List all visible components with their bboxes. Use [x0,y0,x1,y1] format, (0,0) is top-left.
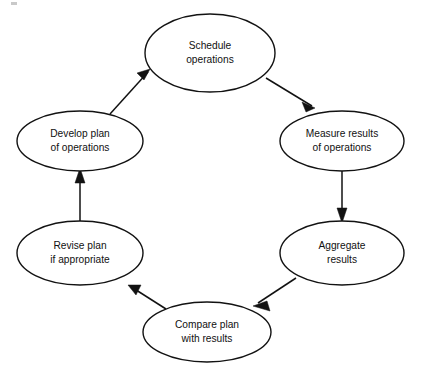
arrow-develop-plan-to-schedule-operations [110,69,150,114]
node-schedule-operations-label-line2: operations [186,54,234,65]
arrow-schedule-operations-to-measure-results [266,78,315,112]
arrow-revise-plan-to-develop-plan [75,168,85,221]
node-schedule-operations-label-line1: Schedule [189,40,232,51]
diagram-canvas: Schedule operations Measure results of o… [0,0,422,382]
node-measure-results[interactable]: Measure results of operations [280,111,404,171]
node-aggregate-results-label-line1: Aggregate [318,240,365,251]
operations-cycle-diagram: Schedule operations Measure results of o… [0,0,422,382]
node-schedule-operations[interactable]: Schedule operations [145,14,275,92]
node-measure-results-label-line2: of operations [313,142,372,153]
node-develop-plan-label-line1: Develop plan [50,128,109,139]
arrow-aggregate-results-to-compare-plan [253,278,296,311]
node-develop-plan[interactable]: Develop plan of operations [17,111,143,171]
node-revise-plan-label-line1: Revise plan [53,240,106,251]
node-compare-plan[interactable]: Compare plan with results [143,302,271,362]
arrow-compare-plan-to-revise-plan [128,285,166,309]
node-compare-plan-label-line1: Compare plan [175,319,239,330]
node-revise-plan[interactable]: Revise plan if appropriate [17,221,143,285]
node-develop-plan-label-line2: of operations [51,142,110,153]
node-aggregate-results[interactable]: Aggregate results [280,221,404,285]
node-aggregate-results-label-line2: results [327,254,357,265]
scan-artifact-speck [11,2,17,5]
node-compare-plan-label-line2: with results [181,333,233,344]
node-revise-plan-label-line2: if appropriate [50,254,110,265]
arrow-measure-results-to-aggregate-results [337,171,347,223]
node-measure-results-label-line1: Measure results [306,128,378,139]
